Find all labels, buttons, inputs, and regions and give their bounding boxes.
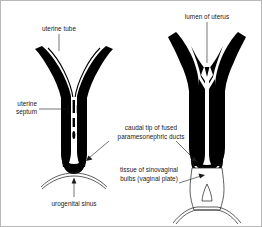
shared-labels: caudal tip of fused paramesonephric duct… bbox=[118, 124, 185, 183]
uterus-body-solid bbox=[199, 79, 205, 166]
arrowhead-urogenital-sinus bbox=[72, 178, 77, 184]
label-caudal-tip-line1: caudal tip of fused bbox=[125, 124, 178, 132]
figure-canvas: uterine tube uterine septum urogenital s… bbox=[1, 1, 262, 227]
septum-dash-2 bbox=[73, 118, 75, 127]
left-horn-wall bbox=[35, 46, 71, 167]
label-urogenital-sinus: urogenital sinus bbox=[51, 200, 96, 208]
leader-caudal-tip-left bbox=[89, 141, 109, 158]
vaginal-plate-wing-inner bbox=[176, 210, 238, 224]
uterus-wall-right bbox=[212, 32, 246, 166]
septum-dash-3 bbox=[72, 131, 75, 139]
label-uterine-septum-line1: uterine bbox=[17, 100, 37, 107]
septum-dash-1 bbox=[73, 100, 75, 113]
uterus-body-solid-right bbox=[209, 79, 215, 166]
label-sinovaginal-line2: bulbs (vaginal plate) bbox=[120, 175, 178, 183]
uterus-wall-left bbox=[168, 32, 202, 166]
right-diagram: lumen of uterus bbox=[86, 13, 246, 224]
anatomy-figure: uterine tube uterine septum urogenital s… bbox=[0, 0, 262, 227]
label-caudal-tip-line2: paramesonephric ducts bbox=[118, 133, 185, 141]
label-lumen-of-uterus: lumen of uterus bbox=[185, 13, 229, 20]
label-uterine-septum-line2: septum bbox=[16, 108, 37, 116]
label-sinovaginal-line1: tissue of sinovaginal bbox=[120, 166, 178, 174]
label-uterine-tube: uterine tube bbox=[42, 25, 76, 32]
left-diagram: uterine tube uterine septum urogenital s… bbox=[16, 25, 113, 208]
right-horn-wall bbox=[77, 46, 113, 167]
arrowhead-caudal-tip-left bbox=[86, 156, 93, 162]
